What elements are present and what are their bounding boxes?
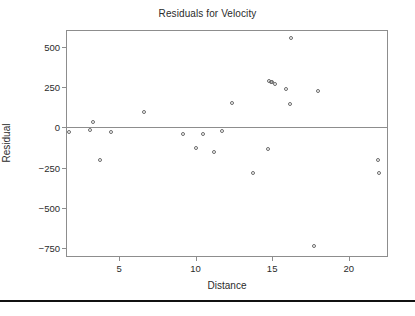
chart-title: Residuals for Velocity — [0, 8, 415, 19]
data-point — [91, 120, 95, 124]
data-point — [194, 146, 198, 150]
y-axis-tick-label: 500 — [44, 42, 60, 53]
x-axis-tick-label: 20 — [343, 263, 354, 274]
data-point — [142, 110, 146, 114]
footer-divider — [0, 300, 415, 302]
y-axis-tick — [62, 127, 67, 128]
data-point — [377, 171, 381, 175]
data-point — [109, 130, 113, 134]
y-axis-tick — [62, 168, 67, 169]
data-point — [98, 158, 102, 162]
data-point — [220, 129, 224, 133]
x-axis-tick — [119, 256, 120, 261]
x-axis-tick — [272, 256, 273, 261]
data-point — [376, 158, 380, 162]
x-axis-tick-label: 5 — [116, 263, 121, 274]
plot-area: 5002500−250−500−7505101520 — [66, 30, 388, 257]
y-axis-tick — [62, 47, 67, 48]
data-point — [88, 128, 92, 132]
x-axis-tick-label: 15 — [267, 263, 278, 274]
residual-plot-figure: Residuals for Velocity 5002500−250−500−7… — [0, 0, 415, 316]
y-axis-tick-label: −500 — [39, 202, 60, 213]
data-point — [67, 130, 71, 134]
y-axis-title: Residual — [1, 124, 12, 163]
data-point — [288, 102, 292, 106]
data-point — [312, 244, 316, 248]
y-axis-tick — [62, 248, 67, 249]
x-axis-tick — [349, 256, 350, 261]
data-point — [181, 132, 185, 136]
data-point — [266, 147, 270, 151]
y-axis-tick-label: 0 — [55, 122, 60, 133]
data-point — [212, 150, 216, 154]
y-axis-tick-label: 250 — [44, 82, 60, 93]
y-axis-tick-label: −750 — [39, 242, 60, 253]
data-point — [289, 36, 293, 40]
zero-reference-line — [67, 127, 387, 128]
y-axis-tick — [62, 208, 67, 209]
y-axis-tick-label: −250 — [39, 162, 60, 173]
data-point — [284, 87, 288, 91]
y-axis-tick — [62, 87, 67, 88]
data-point — [201, 132, 205, 136]
data-point — [316, 89, 320, 93]
data-point — [273, 82, 277, 86]
x-axis-tick-label: 10 — [190, 263, 201, 274]
x-axis-tick — [196, 256, 197, 261]
data-point — [230, 101, 234, 105]
x-axis-title: Distance — [66, 280, 388, 291]
data-point — [251, 171, 255, 175]
